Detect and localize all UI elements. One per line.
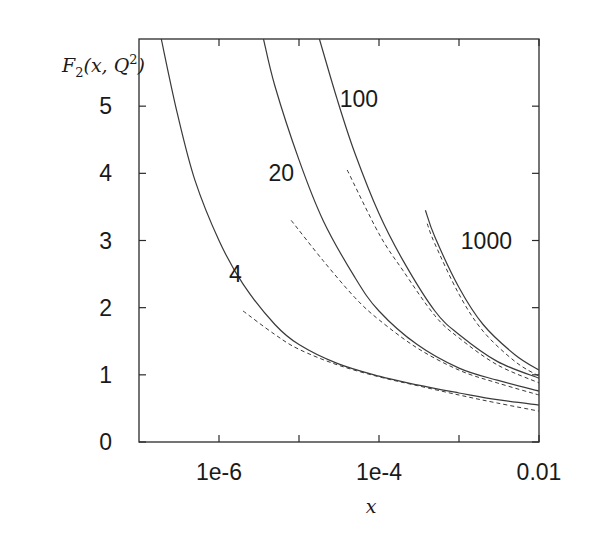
- y-tick-label: 4: [99, 160, 112, 186]
- y-tick-label: 1: [99, 362, 112, 388]
- f2-chart: 012345 1e-61e-40.01 4201001000 F2(x, Q2)…: [0, 0, 601, 541]
- y-tick-label: 3: [99, 228, 112, 254]
- y-axis-title: F2(x, Q2): [61, 52, 145, 80]
- y-axis-ticks: 012345: [99, 93, 539, 455]
- y-tick-label: 0: [99, 429, 112, 455]
- y-tick-label: 2: [99, 295, 112, 321]
- x-axis-title: x: [366, 495, 377, 517]
- curve-label-q2-20: 20: [268, 160, 294, 186]
- curve-label-q2-1000: 1000: [461, 228, 512, 254]
- curve-labels: 4201001000: [229, 86, 512, 287]
- x-tick-label: 1e-6: [196, 459, 242, 485]
- curve-q2-20-solid: [264, 39, 540, 391]
- x-axis-ticks: 1e-61e-40.01: [196, 39, 561, 485]
- curve-label-q2-100: 100: [340, 86, 378, 112]
- y-tick-label: 5: [99, 93, 112, 119]
- x-tick-label: 0.01: [517, 459, 562, 485]
- x-tick-label: 1e-4: [356, 459, 402, 485]
- curve-label-q2-4: 4: [229, 261, 242, 287]
- curve-q2-4-dashed: [243, 311, 539, 411]
